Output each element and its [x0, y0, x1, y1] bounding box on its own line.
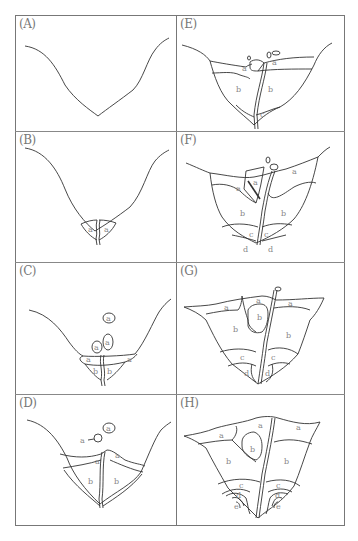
valley-diagram-d: a a a a b b [15, 394, 176, 526]
svg-text:b: b [93, 367, 98, 376]
panel-f: (F) a a a b b c c d d [176, 131, 345, 262]
svg-text:a: a [115, 451, 120, 460]
valley-diagram-f: a a a b b c c d d [176, 131, 345, 262]
panel-g: (G) a a a b b b c c d d [176, 262, 345, 394]
svg-text:a: a [258, 421, 263, 430]
svg-text:b: b [114, 477, 119, 486]
valley-diagram-h: a a a b b b c c d d e e [176, 394, 345, 526]
valley-diagram-e: a a b b c [176, 15, 345, 131]
svg-text:b: b [286, 331, 291, 340]
svg-text:b: b [240, 209, 245, 218]
svg-text:d: d [265, 369, 270, 378]
panel-e: (E) a a b b c [176, 15, 345, 131]
svg-text:d: d [275, 491, 280, 500]
svg-text:a: a [95, 457, 100, 466]
panel-c: (C) a a a a a b b [15, 262, 176, 394]
valley-diagram-g: a a a b b b c c d d [176, 262, 345, 394]
svg-text:a: a [242, 64, 247, 73]
svg-text:a: a [94, 343, 99, 352]
svg-text:b: b [236, 85, 241, 94]
svg-text:b: b [88, 477, 93, 486]
svg-text:a: a [219, 431, 224, 440]
svg-text:a: a [105, 338, 110, 347]
svg-text:a: a [127, 355, 132, 364]
svg-text:a: a [106, 424, 111, 433]
panel-a: (A) [15, 15, 176, 131]
svg-text:c: c [249, 230, 254, 239]
layer-label: a [104, 225, 109, 234]
svg-text:d: d [243, 245, 248, 254]
svg-text:b: b [257, 313, 262, 322]
svg-text:c: c [240, 353, 245, 362]
svg-text:b: b [226, 457, 231, 466]
valley-diagram-c: a a a a a b b [15, 262, 176, 394]
panel-d: (D) a a a a b b [15, 394, 176, 526]
svg-text:a: a [253, 178, 258, 187]
svg-text:c: c [271, 353, 276, 362]
svg-text:a: a [106, 314, 111, 323]
svg-text:d: d [244, 369, 249, 378]
svg-text:a: a [86, 355, 91, 364]
svg-text:b: b [250, 445, 255, 454]
svg-text:a: a [272, 58, 277, 67]
svg-text:b: b [281, 209, 286, 218]
svg-text:c: c [239, 481, 244, 490]
valley-diagram-b: a a [15, 131, 176, 262]
layer-label: a [88, 225, 93, 234]
svg-text:a: a [288, 299, 293, 308]
svg-text:c: c [276, 481, 281, 490]
svg-text:a: a [80, 436, 85, 445]
svg-text:c: c [260, 110, 265, 119]
svg-text:a: a [224, 303, 229, 312]
svg-text:e: e [234, 502, 239, 511]
svg-text:a: a [296, 423, 301, 432]
svg-text:d: d [268, 245, 273, 254]
svg-text:b: b [268, 85, 273, 94]
svg-text:a: a [236, 184, 241, 193]
valley-diagram-a [15, 15, 176, 131]
svg-text:a: a [256, 296, 261, 305]
svg-text:a: a [292, 167, 297, 176]
svg-text:b: b [233, 325, 238, 334]
panel-b: (B) a a [15, 131, 176, 262]
svg-text:b: b [107, 367, 112, 376]
svg-text:e: e [276, 502, 281, 511]
svg-text:b: b [284, 457, 289, 466]
svg-text:d: d [236, 491, 241, 500]
svg-text:c: c [264, 230, 269, 239]
panel-h: (H) a a a b b b c c d d e e [176, 394, 345, 526]
